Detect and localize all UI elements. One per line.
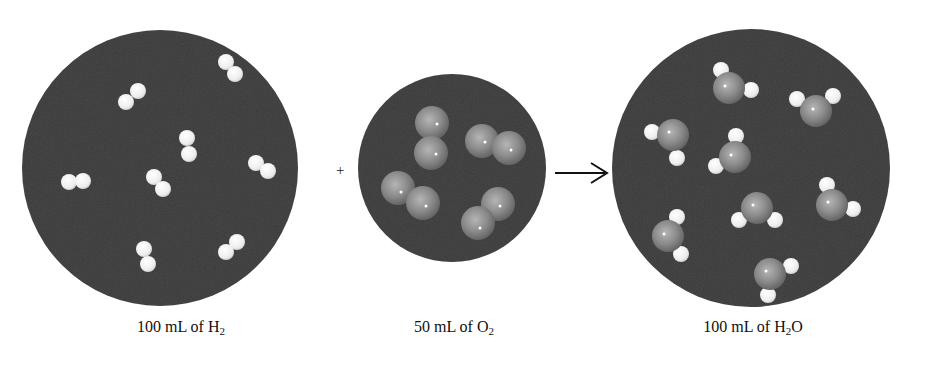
o2-label: 50 mL of O2: [414, 318, 494, 337]
h2-container: [22, 30, 298, 306]
reaction-diagram: [0, 0, 933, 371]
reaction-arrow: [555, 163, 607, 183]
h2o-container: [612, 29, 890, 307]
plus-sign: +: [336, 162, 344, 179]
h2-label: 100 mL of H2: [137, 318, 225, 337]
h2o-label: 100 mL of H2O: [703, 318, 803, 337]
o2-container: [358, 74, 546, 262]
